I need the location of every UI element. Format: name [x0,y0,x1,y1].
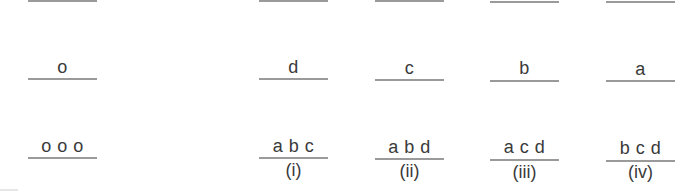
middle-entry: c [375,59,444,77]
column-ii: c a b d (ii) [375,0,444,194]
bottom-rule [28,157,97,159]
column-iv: a b c d (iv) [606,0,675,194]
bottom-entry: a c d [490,138,559,156]
bottom-entry: o o o [28,137,97,155]
crop-artifact [0,189,18,191]
middle-entry: d [259,58,328,76]
middle-entry: o [28,58,97,76]
middle-rule [259,78,328,80]
bottom-rule [259,157,328,159]
middle-rule [375,79,444,81]
middle-entry: b [490,59,559,77]
middle-rule [28,78,97,80]
middle-rule [606,80,675,82]
column-label: (iv) [606,162,675,182]
bottom-entry: b c d [606,139,675,157]
column-label: (iii) [490,162,559,182]
bottom-rule [490,159,559,161]
top-rule [375,0,444,2]
bottom-entry: a b c [259,137,328,155]
column-label: (ii) [375,161,444,181]
column-reference: o o o o [28,0,97,194]
top-rule [259,0,328,2]
column-iii: b a c d (iii) [490,0,559,194]
column-label: (i) [259,160,328,180]
bottom-rule [375,158,444,160]
bottom-entry: a b d [375,138,444,156]
top-rule [606,1,675,3]
column-i: d a b c (i) [259,0,328,194]
middle-entry: a [606,60,675,78]
top-rule [28,0,97,2]
middle-rule [490,80,559,82]
top-rule [490,1,559,3]
